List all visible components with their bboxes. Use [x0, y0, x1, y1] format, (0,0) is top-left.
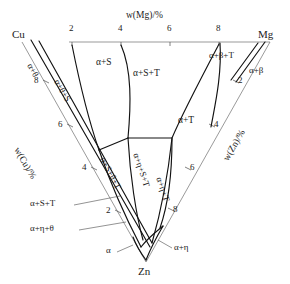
boundary-alpha-lens-right: [146, 226, 163, 260]
tick-label-cu-6: 6: [58, 120, 63, 129]
boundary-alpha-s: [121, 45, 130, 138]
region-label-a-beta-t: α+β+T: [209, 51, 234, 60]
boundary-quad-upper: [99, 138, 128, 150]
leader-a-eta: [158, 240, 172, 248]
leader-a-eta-th: [79, 222, 126, 230]
leader-alpha: [117, 245, 133, 252]
tick-label-mg-4: 4: [118, 24, 123, 33]
tick-label-zn-8: 8: [173, 205, 178, 214]
region-label-a-s-t: α+S+T: [133, 69, 160, 79]
region-label-a-s-t-outer: α+S+T: [30, 199, 55, 208]
phase-diagram-canvas: Cu Mg Zn w(Mg)/% w(Cu)/% w(Zn)/% 2 4 6 8…: [0, 0, 290, 284]
tick-label-cu-4: 4: [82, 163, 87, 172]
corner-label-zn: Zn: [138, 266, 150, 277]
region-label-a-beta: α+β: [249, 66, 263, 75]
axis-title-mg: w(Mg)/%: [126, 11, 163, 21]
region-label-a-s: α+S: [96, 58, 112, 68]
tick-label-zn-4: 4: [214, 120, 219, 129]
region-label-a-t: α+T: [178, 116, 194, 126]
tick-label-zn-2: 2: [238, 76, 243, 85]
corner-label-cu: Cu: [12, 29, 25, 40]
axis-line-right: [146, 42, 270, 262]
tick-label-mg-8: 8: [216, 24, 221, 33]
region-label-a-eta: α+η: [174, 243, 189, 252]
boundary-alpha-lens-left: [133, 237, 146, 260]
tick-label-zn-6: 6: [190, 163, 195, 172]
diagram-lines: [0, 0, 290, 284]
tick-label-cu-2: 2: [106, 206, 111, 215]
tick-label-mg-2: 2: [69, 24, 74, 33]
tick-label-mg-6: 6: [167, 24, 172, 33]
region-label-alpha: α: [106, 246, 111, 255]
corner-label-mg: Mg: [258, 29, 273, 40]
region-label-a-eta-theta: α+η+θ: [30, 224, 54, 233]
tick-label-cu-8: 8: [34, 76, 39, 85]
